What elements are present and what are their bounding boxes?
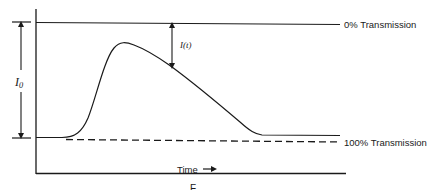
time-axis-label: Time xyxy=(177,165,198,175)
i-t-label: I(t) xyxy=(180,41,192,50)
full-transmission-label: 100% Transmission xyxy=(344,138,427,148)
i-zero-sub: 0 xyxy=(19,81,23,90)
signal-curve xyxy=(36,43,340,138)
i-zero-label: I0 xyxy=(15,76,23,90)
zero-transmission-label: 0% Transmission xyxy=(344,20,416,30)
zero-transmission-line xyxy=(36,23,340,25)
full-transmission-line xyxy=(66,140,340,143)
figure-caption-partial: F xyxy=(190,184,196,190)
